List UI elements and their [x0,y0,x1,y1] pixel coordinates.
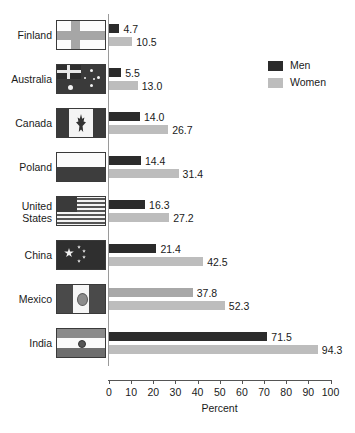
bar-men [109,244,156,253]
bar-men [109,288,193,297]
bar-value-women: 52.3 [229,302,249,311]
bar-value-men: 21.4 [160,245,180,254]
category-label: Poland [0,162,52,174]
x-tick-label: 10 [119,386,143,398]
bar-men [109,112,140,121]
x-tick [242,380,243,384]
bar-women [109,345,318,354]
mexico-flag [56,284,106,314]
united-states-flag [56,196,106,226]
x-tick [308,380,309,384]
bar-value-men: 14.0 [144,113,164,122]
x-tick-label: 100 [319,386,343,398]
canada-flag [56,108,106,138]
bar-value-women: 26.7 [172,126,192,135]
bar-women [109,81,138,90]
x-tick [286,380,287,384]
chart-row: China21.442.5 [0,240,355,284]
bar-value-men: 14.4 [145,157,165,166]
bar-value-women: 27.2 [173,214,193,223]
bar-value-women: 10.5 [136,38,156,47]
x-tick [331,380,332,384]
category-label: Canada [0,118,52,130]
legend-label-women: Women [290,75,326,90]
category-label: UnitedStates [0,201,52,224]
x-tick [109,380,110,384]
category-label: Finland [0,30,52,42]
chart-row: Canada14.026.7 [0,108,355,152]
x-tick-label: 60 [230,386,254,398]
bar-value-women: 31.4 [183,170,203,179]
bar-value-men: 71.5 [271,333,291,342]
x-tick [153,380,154,384]
category-label: China [0,250,52,262]
x-tick-label: 80 [274,386,298,398]
bar-value-men: 4.7 [123,25,138,34]
bar-value-women: 42.5 [207,258,227,267]
finland-flag [56,20,106,50]
x-axis: 0102030405060708090100 Percent [0,380,355,433]
bar-value-men: 16.3 [149,201,169,210]
x-tick [175,380,176,384]
chart-row: India71.594.3 [0,328,355,372]
bar-women [109,125,168,134]
bar-men [109,200,145,209]
bar-value-men: 37.8 [197,289,217,298]
bar-value-women: 13.0 [142,82,162,91]
x-tick-label: 30 [163,386,187,398]
x-tick-label: 70 [252,386,276,398]
women-swatch-icon [268,78,283,88]
bar-men [109,156,141,165]
bar-women [109,213,169,222]
poland-flag [56,152,106,182]
china-flag [56,240,106,270]
india-flag [56,328,106,358]
x-tick [220,380,221,384]
x-tick-label: 40 [186,386,210,398]
x-tick-label: 0 [97,386,121,398]
australia-flag [56,64,106,94]
chart-row: Poland14.431.4 [0,152,355,196]
bar-chart: Finland4.710.5Australia5.513.0Canada14.0… [0,0,355,433]
x-axis-title: Percent [108,402,331,414]
bar-women [109,301,225,310]
bar-men [109,24,119,33]
bar-men [109,332,267,341]
bar-men [109,68,121,77]
category-label: Australia [0,74,52,86]
bar-women [109,169,179,178]
x-tick-label: 90 [296,386,320,398]
x-tick-label: 20 [141,386,165,398]
men-swatch-icon [268,61,283,71]
bar-women [109,257,203,266]
bar-women [109,37,132,46]
x-tick-label: 50 [208,386,232,398]
chart-row: UnitedStates16.327.2 [0,196,355,240]
legend-label-men: Men [290,58,310,73]
x-tick [264,380,265,384]
bar-value-men: 5.5 [125,69,140,78]
bar-value-women: 94.3 [322,346,342,355]
chart-row: Mexico37.852.3 [0,284,355,328]
category-label: India [0,338,52,350]
x-tick [198,380,199,384]
category-label: Mexico [0,294,52,306]
x-tick [131,380,132,384]
